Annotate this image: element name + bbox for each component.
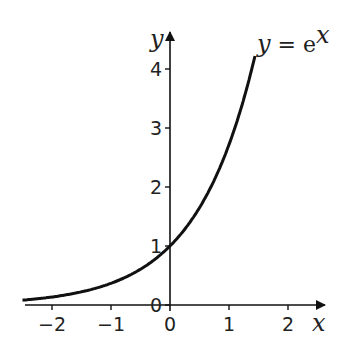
- x-tick-label: 1: [223, 313, 235, 335]
- x-tick-label: −1: [97, 313, 125, 335]
- x-tick-label: 0: [164, 313, 176, 335]
- y-tick-label: 2: [150, 176, 162, 198]
- y-axis-label: y: [149, 25, 164, 53]
- exp-chart: −2−101201234 y x y = ex: [0, 0, 348, 356]
- y-tick-label: 0: [150, 294, 162, 316]
- curve-label: y = ex: [256, 21, 330, 58]
- y-tick-label: 3: [150, 117, 162, 139]
- x-axis-label: x: [312, 309, 326, 337]
- x-tick-label: 2: [282, 313, 294, 335]
- y-tick-label: 4: [150, 58, 162, 80]
- axes: [25, 32, 325, 311]
- x-tick-label: −2: [38, 313, 66, 335]
- exp-curve: [23, 56, 256, 300]
